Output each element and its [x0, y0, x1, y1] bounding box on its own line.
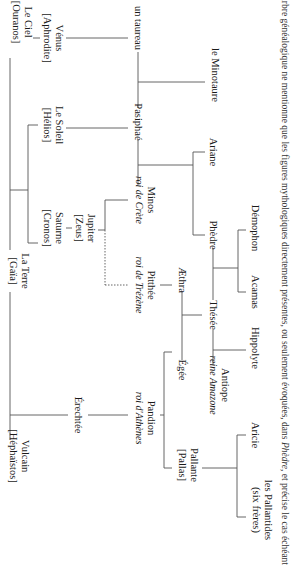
node-name: Acamas	[249, 275, 261, 309]
node-la-terre: La Terre [Gaïa]	[7, 253, 30, 289]
node-sub: [Hélios]	[41, 106, 53, 144]
node-pandion: Pandion roi d'Athènes	[135, 392, 158, 445]
node-name: Ariane	[207, 138, 219, 167]
node-erechtee: Érechtée	[72, 397, 84, 434]
node-title: reine Amazone	[209, 355, 220, 414]
node-jupiter: Jupiter [Zeus]	[73, 214, 96, 243]
node-name: Pallante	[188, 448, 200, 482]
node-ariane: Ariane	[207, 138, 219, 167]
node-name: Minos	[146, 176, 158, 224]
node-sub: [Cronos]	[41, 209, 53, 246]
node-name: les Pallantides	[262, 480, 274, 540]
node-title: roi d'Athènes	[135, 392, 146, 445]
node-pitthee: Pitthée roi de Trézène	[135, 257, 158, 314]
node-name: Le Ciel	[22, 1, 34, 44]
node-name: Égée	[176, 360, 188, 381]
node-name: Pandion	[146, 392, 158, 445]
node-minos: Minos roi de Crète	[135, 176, 158, 224]
node-title: roi de Trézène	[135, 257, 146, 314]
node-sub: [Héphaïstos]	[7, 429, 19, 483]
node-sub: [Gaïa]	[7, 253, 19, 289]
node-name: Jupiter	[85, 214, 97, 243]
node-saturne: Saturne [Cronos]	[41, 209, 64, 246]
node-hippolyte: Hippolyte	[249, 327, 261, 369]
node-name: le Minotaure	[209, 48, 221, 102]
node-egee: Égée	[176, 360, 188, 381]
node-aricie: Aricie	[249, 422, 261, 448]
node-thesee: Thésée	[207, 300, 219, 330]
caption-title: Phèdre	[280, 442, 290, 469]
caption: Cet arbre généalogique ne mentionne que …	[280, 0, 290, 565]
node-sub: (six frères)	[250, 480, 262, 540]
node-demophon: Démophon	[249, 205, 261, 252]
node-name: Saturne	[53, 209, 65, 246]
node-name: Antiope	[220, 355, 232, 414]
node-le-ciel: Le Ciel [Ouranos]	[10, 1, 33, 44]
node-le-soleil: Le Soleil [Hélios]	[41, 106, 64, 144]
node-name: Thésée	[207, 300, 219, 330]
node-minotaure: le Minotaure	[209, 48, 221, 102]
node-sub: [Aphrodite]	[41, 13, 53, 63]
node-name: Aricie	[249, 422, 261, 448]
node-vulcain: Vulcain [Héphaïstos]	[7, 429, 30, 483]
node-name: un taureau	[132, 6, 144, 50]
node-name: Æthra	[176, 267, 188, 293]
node-pasiphae: Pasiphaé	[132, 103, 144, 140]
node-venus: Vénus [Aphrodite]	[41, 13, 64, 63]
node-sub: [Zeus]	[73, 214, 85, 243]
node-aethra: Æthra	[176, 267, 188, 293]
caption-text-before: Cet arbre généalogique ne mentionne que …	[280, 0, 290, 442]
node-name: Le Soleil	[53, 106, 65, 144]
node-pallante: Pallante [Pallas]	[176, 448, 199, 482]
node-taureau: un taureau	[132, 6, 144, 50]
node-sub: [Ouranos]	[10, 1, 22, 44]
node-name: Pasiphaé	[132, 103, 144, 140]
node-sub: [Pallas]	[176, 448, 188, 482]
node-name: La Terre	[19, 253, 31, 289]
node-name: Phèdre	[207, 220, 219, 249]
node-name: Hippolyte	[249, 327, 261, 369]
node-name: Vulcain	[19, 429, 31, 483]
node-name: Démophon	[249, 205, 261, 252]
node-pallantides: les Pallantides (six frères)	[250, 480, 273, 540]
node-name: Pitthée	[146, 257, 158, 314]
node-antiope: Antiope reine Amazone	[209, 355, 232, 414]
node-acamas: Acamas	[249, 275, 261, 309]
node-phedre: Phèdre	[207, 220, 219, 249]
node-title: roi de Crète	[135, 176, 146, 224]
caption-text-after: , et précise le cas échéant	[280, 469, 290, 565]
node-name: Vénus	[53, 13, 65, 63]
node-name: Érechtée	[72, 397, 84, 434]
